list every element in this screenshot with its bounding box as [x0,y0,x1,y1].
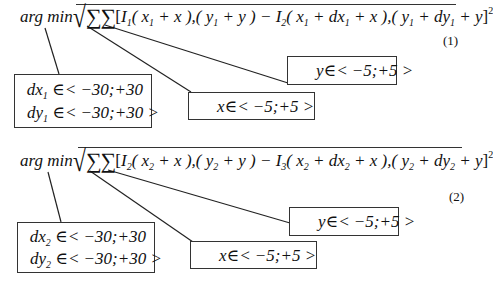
dx-range-1: dx1 ∈< −30;+30 [27,79,143,100]
dy-range-1: dy1 ∈< −30;+30 > [27,102,159,123]
argmin-operator: arg min [20,7,73,26]
y-range-box-1: y∈< −5;+5 > [287,56,397,85]
argmin-operator: arg min [20,151,73,170]
equation-number-1: (1) [443,33,458,49]
double-sum-symbol: ∑∑ [86,7,115,27]
displacement-range-box-2: dx2 ∈< −30;+30 dy2 ∈< −30;+30 > [17,222,155,273]
leader-sum-y-2 [108,170,290,223]
leader-argmin-2 [48,172,61,222]
sqrt-symbol: √ [73,149,86,174]
sqrt-symbol: √ [73,5,86,30]
x-range-box-1: x∈< −5;+5 > [188,92,315,120]
displacement-range-box-1: dx1 ∈< −30;+30 dy1 ∈< −30;+30 > [14,74,152,128]
double-sum-symbol: ∑∑ [86,151,115,171]
x-range-box-2: x∈< −5;+5 > [190,241,317,269]
dx-range-2: dx2 ∈< −30;+30 [30,226,146,247]
leader-argmin-1 [45,28,59,74]
equation-2: arg min√∑∑[I2( x2 + x ),( y2 + y ) − I3(… [20,148,493,171]
y-range-box-2: y∈< −5;+5 > [289,207,399,236]
dy-range-2: dy2 ∈< −30;+30 > [30,248,162,269]
equation-1: arg min√∑∑[I1( x1 + x ),( y1 + y ) − I2(… [20,4,493,27]
equation-number-2: (2) [449,189,464,205]
